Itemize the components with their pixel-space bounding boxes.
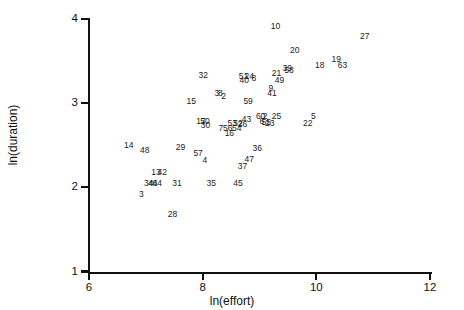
data-point-label: 32 bbox=[199, 71, 208, 80]
data-point-label: 20 bbox=[290, 46, 299, 55]
data-point-label: 37 bbox=[238, 162, 247, 171]
data-point-label: 18 bbox=[315, 61, 324, 70]
data-point-label: 3 bbox=[139, 190, 144, 199]
data-point-label: 22 bbox=[303, 119, 312, 128]
data-point-label: 49 bbox=[275, 76, 284, 85]
y-tick-label-wrap: 1 bbox=[50, 266, 78, 278]
y-axis-line bbox=[88, 18, 90, 273]
x-axis-line bbox=[88, 272, 432, 274]
data-point-label: 58 bbox=[284, 66, 293, 75]
data-point-label: 36 bbox=[252, 144, 261, 153]
scatter-plot-figure: 1234681012 10272019186339582132512484049… bbox=[0, 0, 464, 310]
data-point-label: 57 bbox=[193, 149, 202, 158]
x-tick-mark bbox=[315, 273, 317, 280]
plot-area: 1234681012 10272019186339582132512484049… bbox=[0, 0, 464, 310]
x-tick-mark bbox=[202, 273, 204, 280]
x-tick-label: 8 bbox=[191, 282, 215, 294]
data-point-label: 27 bbox=[360, 32, 369, 41]
data-point-label: 14 bbox=[124, 141, 133, 150]
data-point-label: 2 bbox=[221, 91, 226, 100]
data-point-label: 63 bbox=[338, 61, 347, 70]
data-point-label: 15 bbox=[187, 96, 196, 105]
x-tick-label: 6 bbox=[77, 282, 101, 294]
y-tick-label-wrap: 3 bbox=[50, 97, 78, 109]
data-point-label: 29 bbox=[176, 143, 185, 152]
data-point-label: 31 bbox=[172, 179, 181, 188]
data-point-label: 23 bbox=[265, 119, 274, 128]
y-tick-label: 4 bbox=[56, 13, 78, 25]
y-tick-label-wrap: 2 bbox=[50, 181, 78, 193]
data-point-label: 64 bbox=[152, 179, 161, 188]
data-point-label: 30 bbox=[201, 121, 210, 130]
data-point-label: 48 bbox=[140, 146, 149, 155]
y-axis-label: ln(duration) bbox=[6, 75, 20, 195]
data-point-label: 45 bbox=[233, 179, 242, 188]
x-axis-label: ln(effort) bbox=[0, 294, 464, 308]
x-tick-label: 12 bbox=[418, 282, 442, 294]
data-point-label: 40 bbox=[239, 76, 248, 85]
data-point-label: 10 bbox=[271, 21, 280, 30]
y-tick-label: 3 bbox=[56, 97, 78, 109]
data-point-label: 28 bbox=[168, 210, 177, 219]
y-tick-label: 2 bbox=[56, 181, 78, 193]
data-point-label: 4 bbox=[203, 155, 208, 164]
data-point-label: 41 bbox=[267, 89, 276, 98]
y-tick-label: 1 bbox=[56, 266, 78, 278]
data-point-label: 59 bbox=[243, 96, 252, 105]
x-tick-label: 10 bbox=[304, 282, 328, 294]
y-tick-mark bbox=[81, 186, 88, 188]
data-point-label: 42 bbox=[158, 168, 167, 177]
y-tick-mark bbox=[81, 18, 88, 20]
x-tick-mark bbox=[429, 273, 431, 280]
x-tick-mark bbox=[88, 273, 90, 280]
y-tick-mark bbox=[81, 102, 88, 104]
data-point-label: 8 bbox=[251, 74, 256, 83]
y-tick-label-wrap: 4 bbox=[50, 13, 78, 25]
data-point-label: 35 bbox=[206, 179, 215, 188]
data-point-label: 16 bbox=[225, 129, 234, 138]
